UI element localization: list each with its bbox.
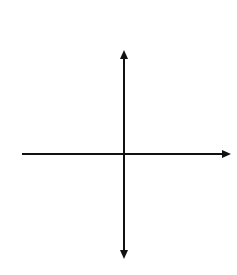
coordinate-plane: [0, 0, 237, 275]
y-axis-arrow-down-icon: [120, 250, 128, 259]
y-axis-arrow-up-icon: [120, 50, 128, 59]
x-axis-arrow-icon: [222, 150, 231, 158]
x-axis: [22, 150, 231, 158]
